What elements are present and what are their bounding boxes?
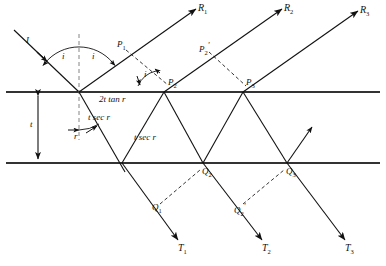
path-2t-tan-r-label: 2t tan r	[99, 95, 126, 104]
label-P3: P3	[246, 78, 255, 89]
label-Q1: Q1	[152, 203, 162, 214]
label-Q3-sub: 3	[293, 171, 296, 178]
refracted-ray-AB	[79, 92, 125, 172]
label-R3: R3	[360, 5, 369, 18]
label-Q2: Q2	[202, 167, 212, 178]
angle-incidence-label-right: i	[92, 52, 95, 61]
label-Q3: Q3	[286, 167, 296, 178]
transmitted-ray-T2	[203, 163, 262, 240]
wavefront-P1-P2	[126, 50, 168, 85]
angle-i-arc-P2	[137, 69, 160, 86]
angle-refraction-label: r	[74, 132, 78, 141]
label-T1-sub: 1	[184, 248, 187, 255]
angle-incidence-label-left: i	[62, 52, 65, 61]
label-P2-sub: 2	[174, 82, 177, 89]
diagram-canvas	[0, 0, 386, 266]
angle-refraction-arc	[68, 124, 99, 133]
internal-ray-F-up	[287, 127, 312, 163]
label-P1-sub: 1	[123, 44, 126, 51]
label-R1: R1	[198, 3, 207, 16]
label-T2-sub: 2	[268, 248, 271, 255]
internal-ray-path	[122, 92, 287, 163]
label-P3-sub: 3	[252, 82, 255, 89]
label-P1: P1	[117, 40, 126, 51]
thickness-label: t	[30, 120, 33, 129]
wavefront-Q2prime-Q3	[243, 170, 284, 204]
wavefront-P2prime-P3	[209, 52, 246, 86]
incident-ray-label: I	[26, 36, 29, 45]
label-T3: T3	[345, 243, 354, 256]
label-R2: R2	[284, 3, 293, 16]
transmitted-ray-T1	[122, 163, 178, 240]
path-t-sec-r-label-right: t sec r	[134, 133, 156, 142]
label-Q1-sub: 1	[159, 207, 162, 214]
reflected-ray-R2	[164, 9, 282, 92]
label-T2: T2	[262, 243, 271, 256]
label-R3-sub: 3	[366, 10, 369, 17]
angle-incidence-label-P2: i	[144, 70, 147, 79]
ray-diagram-figure: I i i r i t 2t tan r t sec r t sec r R1 …	[0, 0, 386, 266]
path-t-sec-r-label-left: t sec r	[88, 113, 110, 122]
label-R2-sub: 2	[290, 8, 293, 15]
label-Q2prime-mark: '	[244, 202, 246, 211]
label-P2prime-mark: '	[208, 41, 210, 50]
label-P2-prime: P2'	[199, 42, 209, 56]
label-T1: T1	[178, 243, 187, 256]
label-T3-sub: 3	[351, 248, 354, 255]
wavefront-Q1-Q2	[160, 170, 200, 204]
label-P2: P2	[168, 78, 177, 89]
reflected-ray-R3	[243, 11, 358, 92]
label-Q2-sub: 2	[209, 171, 212, 178]
label-R1-sub: 1	[204, 8, 207, 15]
label-Q2-prime: Q2'	[234, 203, 245, 217]
